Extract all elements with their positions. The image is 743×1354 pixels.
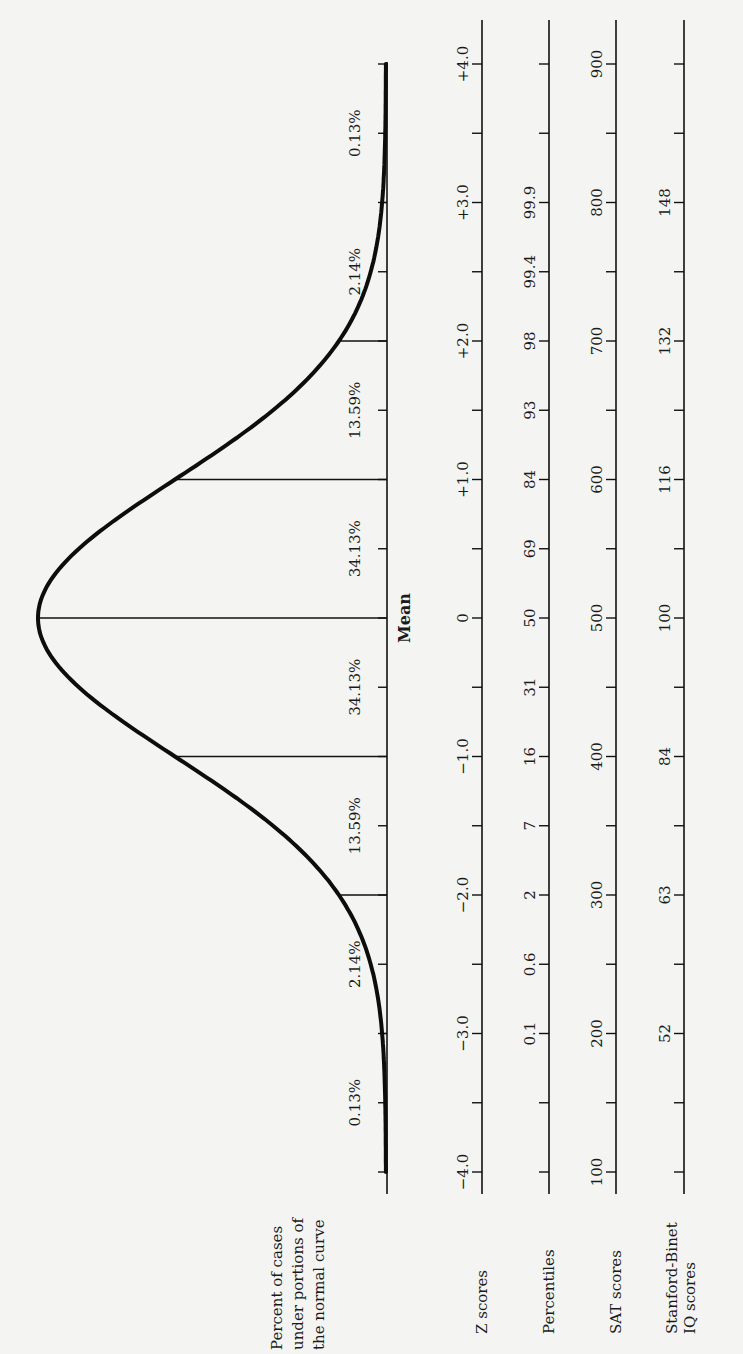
percent-of-cases-label: 34.13%	[346, 520, 364, 577]
axis-tick-label: 99.4	[521, 255, 539, 288]
axis-tick-label: +2.0	[454, 323, 472, 359]
percent-of-cases-label: 13.59%	[346, 382, 364, 439]
axis-tick-label: −2.0	[454, 877, 472, 913]
axis-tick-label: 600	[588, 465, 606, 494]
axis-tick-label: 84	[521, 470, 539, 489]
axis-tick-label: 300	[588, 881, 606, 910]
curve-label-line: under portions of	[289, 1216, 307, 1350]
axis-tick-label: 50	[521, 608, 539, 627]
axis-row-label: Percentiles	[540, 1249, 558, 1334]
axis-tick-label: 116	[656, 465, 674, 494]
axis-tick-label: 100	[588, 1158, 606, 1187]
axis-tick-label: 400	[588, 742, 606, 771]
percent-of-cases-label: 13.59%	[346, 797, 364, 854]
axis-tick-label: 99.9	[521, 186, 539, 219]
axis-tick-label: 98	[521, 331, 539, 350]
axis-tick-label: −3.0	[454, 1015, 472, 1051]
axis-tick-label: 0.6	[521, 952, 539, 976]
percent-of-cases-label: 2.14%	[346, 940, 364, 988]
mean-label: Mean	[395, 593, 414, 643]
z-scores-axis: −4.0−3.0−2.0−1.00+1.0+2.0+3.0+4.0Z score…	[454, 20, 491, 1334]
axis-tick-label: 700	[588, 327, 606, 356]
axis-tick-label: 800	[588, 188, 606, 217]
axis-tick-label: −1.0	[454, 738, 472, 774]
percent-of-cases-label: 2.14%	[346, 248, 364, 296]
axis-tick-label: 31	[521, 678, 539, 697]
axis-tick-label: +3.0	[454, 184, 472, 220]
axis-tick-label: 900	[588, 50, 606, 79]
axis-tick-label: 7	[521, 821, 539, 831]
percent-of-cases-label: 0.13%	[346, 109, 364, 157]
axis-row-label: IQ scores	[681, 1262, 699, 1334]
axis-tick-label: 200	[588, 1019, 606, 1048]
axis-row-label: Stanford-Binet	[663, 1222, 681, 1334]
axis-tick-label: 148	[656, 188, 674, 217]
score-axes: −4.0−3.0−2.0−1.00+1.0+2.0+3.0+4.0Z score…	[454, 20, 699, 1334]
percent-of-cases-label: 34.13%	[346, 659, 364, 716]
axis-tick-label: 100	[656, 604, 674, 633]
axis-tick-label: 93	[521, 401, 539, 420]
axis-row-label: Z scores	[473, 1270, 491, 1334]
axis-tick-label: +1.0	[454, 461, 472, 497]
iq-scores-axis: 526384100116132148Stanford-BinetIQ score…	[656, 20, 699, 1334]
axis-tick-label: 16	[521, 747, 539, 766]
curve-label-line: Percent of cases	[268, 1226, 286, 1350]
percentiles-axis: 0.10.6271631506984939899.499.9Percentile…	[521, 20, 558, 1334]
axis-tick-label: 52	[656, 1024, 674, 1043]
axis-tick-label: 84	[656, 747, 674, 766]
curve-label: Percent of casesunder portions ofthe nor…	[268, 1216, 328, 1350]
axis-tick-label: 2	[521, 890, 539, 900]
axis-tick-label: 0.1	[521, 1022, 539, 1046]
axis-tick-label: 132	[656, 327, 674, 356]
percent-of-cases-label: 0.13%	[346, 1079, 364, 1127]
axis-tick-label: 0	[454, 613, 472, 623]
axis-tick-label: 63	[656, 885, 674, 904]
axis-tick-label: 69	[521, 539, 539, 558]
axis-row-label: SAT scores	[607, 1250, 625, 1334]
normal-curve: 0.13%2.14%13.59%34.13%34.13%13.59%2.14%0…	[38, 62, 414, 1194]
normal-curve-figure: Percent of casesunder portions ofthe nor…	[0, 0, 743, 1354]
rotated-figure-container: Percent of casesunder portions ofthe nor…	[0, 0, 743, 1354]
curve-label-line: the normal curve	[310, 1219, 328, 1350]
axis-tick-label: −4.0	[454, 1154, 472, 1190]
sat-scores-axis: 100200300400500600700800900SAT scores	[588, 20, 625, 1334]
axis-tick-label: 500	[588, 604, 606, 633]
axis-tick-label: +4.0	[454, 46, 472, 82]
